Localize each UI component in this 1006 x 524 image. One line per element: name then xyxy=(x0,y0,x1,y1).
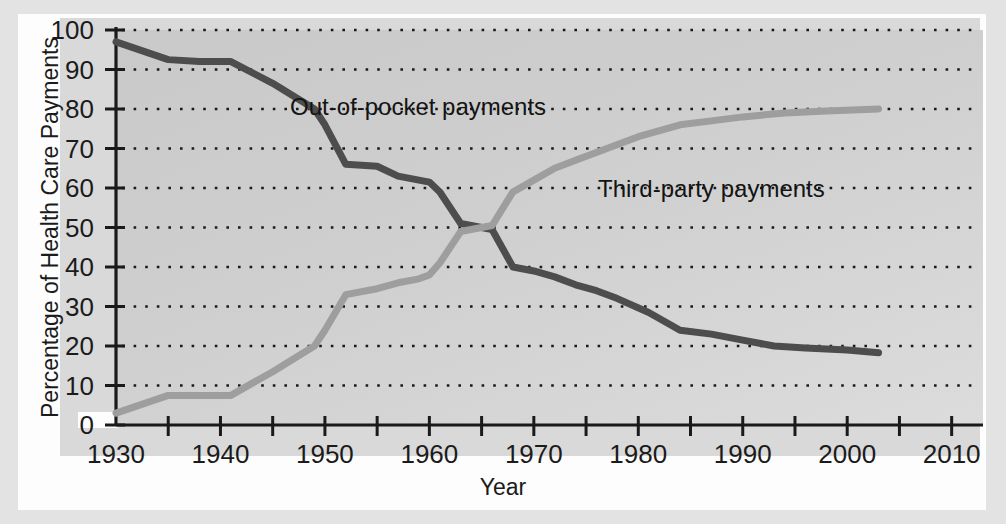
chart-canvas xyxy=(18,14,986,510)
tick-marks-group xyxy=(105,30,952,436)
x-tick-label: 1960 xyxy=(384,441,474,467)
gridlines-group xyxy=(122,30,980,386)
x-tick-label: 1990 xyxy=(698,441,788,467)
x-tick-label: 2010 xyxy=(907,441,997,467)
axis-lines-group xyxy=(116,27,983,425)
y-axis-title: Percentage of Health Care Payments xyxy=(37,28,64,428)
x-tick-label: 1970 xyxy=(489,441,579,467)
x-tick-label: 1930 xyxy=(71,441,161,467)
x-tick-label: 1950 xyxy=(280,441,370,467)
chart-page: 1009080706050403020100 19301940195019601… xyxy=(0,0,1006,524)
series-line-third-party xyxy=(116,109,879,413)
x-tick-label: 1980 xyxy=(593,441,683,467)
series-label-out-of-pocket: Out-of-pocket payments xyxy=(290,93,546,121)
line-chart-figure: 1009080706050403020100 19301940195019601… xyxy=(18,14,986,510)
x-axis-title: Year xyxy=(438,474,568,501)
x-tick-label: 2000 xyxy=(802,441,892,467)
series-label-third-party: Third-party payments xyxy=(598,175,825,203)
x-tick-label: 1940 xyxy=(175,441,265,467)
